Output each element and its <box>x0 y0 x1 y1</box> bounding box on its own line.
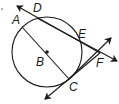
label-f: F <box>96 56 104 70</box>
geometry-diagram: D A E B F C <box>0 0 119 104</box>
label-c: C <box>69 80 78 94</box>
center-point-b <box>45 50 49 54</box>
label-d: D <box>33 1 42 15</box>
secant-line-de-right <box>37 18 117 61</box>
tangent-line-cf-up <box>69 38 111 79</box>
label-e: E <box>78 27 87 41</box>
stray-dot <box>1 8 3 10</box>
label-b: B <box>36 55 44 69</box>
segment-ac <box>22 27 69 79</box>
label-a: A <box>11 13 20 27</box>
